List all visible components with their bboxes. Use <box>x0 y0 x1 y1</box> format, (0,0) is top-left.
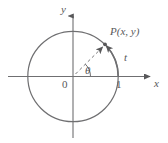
x-axis-label: x <box>154 78 159 89</box>
unit-tick-label: 1 <box>116 79 122 90</box>
unit-circle-figure: y x t θ 0 1 P(x, y) <box>0 0 168 143</box>
point-p-marker <box>103 42 107 46</box>
arc-length-label: t <box>124 52 127 63</box>
point-p-label: P(x, y) <box>110 26 139 37</box>
angle-theta-label: θ <box>85 65 90 76</box>
origin-label: 0 <box>62 79 68 90</box>
y-axis-label: y <box>61 4 66 15</box>
unit-circle-diagram <box>0 0 168 143</box>
arc-length-path <box>107 46 119 77</box>
